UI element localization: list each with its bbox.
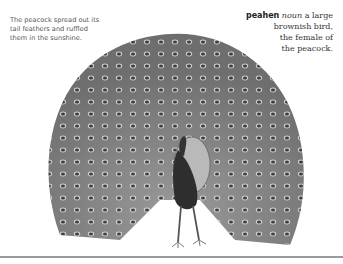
illustration-caption: The peacock spread out its tail feathers… <box>10 16 130 43</box>
definition-text: the female of <box>213 32 333 43</box>
definition-text: brownish bird, <box>213 21 333 32</box>
headword: peahen <box>246 11 279 20</box>
caption-line: The peacock spread out its <box>10 16 130 25</box>
definition-text: the peacock. <box>213 43 333 54</box>
page-divider <box>0 256 343 258</box>
definition-text: a large <box>302 11 333 20</box>
part-of-speech: noun <box>282 11 302 20</box>
dictionary-entry: peahen noun a large brownish bird, the f… <box>213 10 333 54</box>
caption-line: them in the sunshine. <box>10 34 130 43</box>
caption-line: tail feathers and ruffled <box>10 25 130 34</box>
